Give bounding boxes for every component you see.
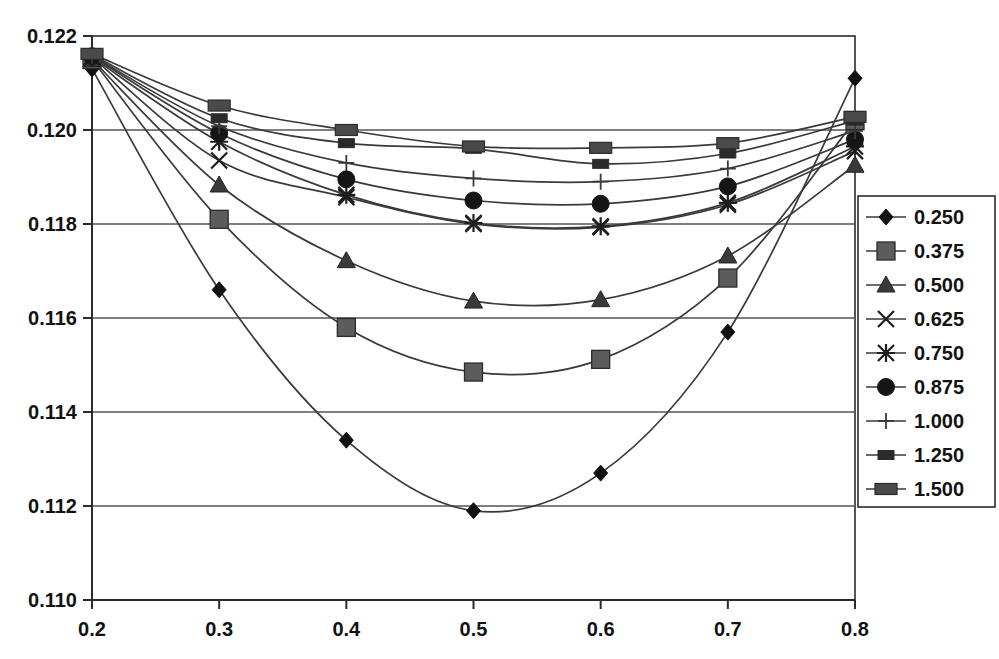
legend-marker-icon: [878, 379, 895, 396]
x-axis-tick-label: 0.2: [78, 618, 106, 640]
y-axis-tick-label: 0.110: [28, 589, 77, 611]
legend-marker-icon: [877, 344, 895, 362]
data-point: [465, 214, 483, 232]
data-point: [592, 217, 610, 235]
legend-label: 1.500: [914, 478, 964, 500]
legend-item-0-375[interactable]: 0.375: [866, 240, 964, 262]
legend-marker-icon: [875, 484, 897, 495]
legend-marker-icon: [877, 242, 895, 260]
data-point: [719, 178, 736, 195]
data-point: [338, 171, 355, 188]
data-point: [465, 192, 482, 209]
x-axis-tick-label: 0.8: [841, 618, 869, 640]
data-point: [720, 149, 736, 158]
legend-marker-icon: [878, 451, 894, 460]
y-axis-tick-label: 0.120: [27, 119, 77, 141]
data-point: [211, 114, 227, 123]
x-axis-tick-label: 0.7: [714, 618, 742, 640]
line-chart: 0.1100.1120.1140.1160.1180.1200.1220.20.…: [0, 0, 999, 659]
y-axis-tick-label: 0.122: [27, 25, 77, 47]
data-point: [338, 139, 354, 148]
data-point: [337, 186, 355, 204]
data-point: [81, 48, 103, 59]
y-axis-tick-label: 0.118: [28, 213, 77, 235]
data-point: [337, 318, 355, 336]
legend-label: 0.625: [914, 308, 964, 330]
data-point: [463, 141, 485, 152]
x-axis: 0.20.30.40.50.60.70.8: [78, 600, 869, 640]
data-point: [719, 269, 737, 287]
x-axis-tick-label: 0.3: [205, 618, 233, 640]
y-axis-tick-label: 0.116: [28, 307, 77, 329]
data-point: [844, 111, 866, 122]
legend-label: 0.375: [914, 240, 964, 262]
legend-label: 1.250: [914, 444, 964, 466]
y-axis-tick-label: 0.112: [28, 495, 77, 517]
legend-label: 1.000: [914, 410, 964, 432]
legend-label: 0.250: [914, 206, 964, 228]
data-point: [593, 159, 609, 168]
data-point: [592, 195, 609, 212]
legend: 0.2500.3750.5000.6250.7500.8751.0001.250…: [858, 196, 995, 507]
x-axis-tick-label: 0.4: [332, 618, 361, 640]
data-point: [592, 350, 610, 368]
data-point: [210, 210, 228, 228]
data-point: [717, 138, 739, 149]
x-axis-tick-label: 0.5: [460, 618, 488, 640]
legend-label: 0.500: [914, 274, 964, 296]
data-point: [208, 100, 230, 111]
y-axis-tick-label: 0.114: [28, 401, 78, 423]
data-point: [335, 125, 357, 136]
data-point: [590, 142, 612, 153]
x-axis-tick-label: 0.6: [587, 618, 615, 640]
y-axis: 0.1100.1120.1140.1160.1180.1200.122: [27, 25, 92, 611]
data-point: [719, 194, 737, 212]
chart-canvas: 0.1100.1120.1140.1160.1180.1200.1220.20.…: [0, 0, 999, 659]
data-point: [465, 363, 483, 381]
legend-label: 0.750: [914, 342, 964, 364]
legend-label: 0.875: [914, 376, 964, 398]
